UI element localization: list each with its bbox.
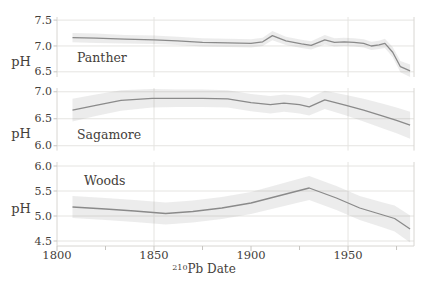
ph-axis-label: pH: [11, 126, 31, 141]
y-tick-label: 6.5: [35, 112, 53, 125]
x-tick-label: 1850: [139, 248, 168, 262]
x-tick-label: 1900: [236, 248, 265, 262]
y-tick-label: 6.5: [35, 65, 53, 78]
x-axis-title: 210Pb Date: [172, 262, 236, 276]
chart-canvas: 7.57.06.5pHPanther7.06.56.0pHSagamore6.0…: [0, 0, 423, 287]
y-tick-label: 7.0: [35, 85, 53, 98]
x-axis-title-text: Pb Date: [188, 262, 236, 276]
y-tick-label: 5.0: [35, 210, 53, 223]
ph-axis-label: pH: [11, 54, 31, 69]
ph-timeseries-chart: 7.57.06.5pHPanther7.06.56.0pHSagamore6.0…: [0, 0, 423, 287]
x-axis-title-superscript: 210: [172, 263, 187, 272]
ph-axis-label: pH: [11, 201, 31, 216]
panel-label-sagamore: Sagamore: [77, 127, 141, 142]
panel-label-woods: Woods: [84, 173, 125, 188]
y-tick-label: 5.5: [35, 185, 53, 198]
y-tick-label: 6.0: [35, 160, 53, 173]
y-tick-label: 6.0: [35, 139, 53, 152]
y-tick-label: 7.0: [35, 40, 53, 53]
x-tick-label: 1950: [333, 248, 362, 262]
y-tick-label: 4.5: [35, 235, 53, 248]
panel-label-panther: Panther: [77, 50, 127, 65]
x-tick-label: 1800: [42, 248, 71, 262]
y-tick-label: 7.5: [35, 14, 53, 27]
